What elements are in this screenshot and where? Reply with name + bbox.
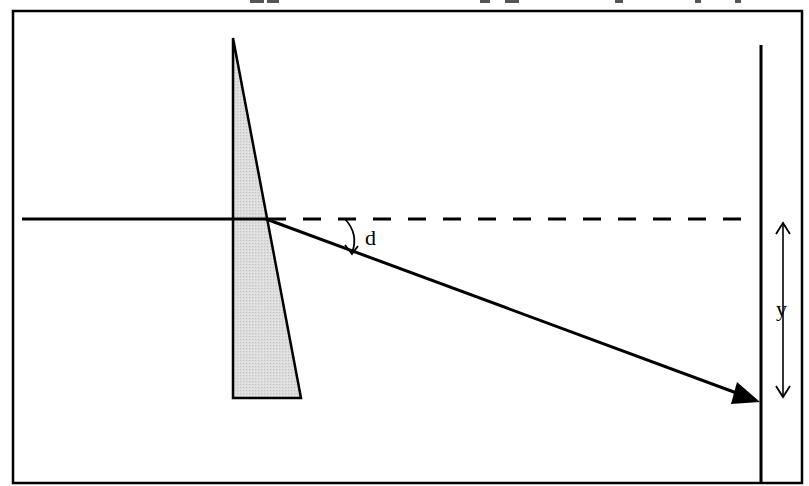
- deviated-ray: [266, 219, 742, 395]
- deviated-ray-arrowhead: [731, 382, 760, 404]
- displacement-label: y: [776, 296, 787, 321]
- deviation-angle-label: d: [365, 225, 376, 250]
- diagram-frame: [13, 11, 802, 483]
- clipped-caption-fragment: [250, 0, 741, 3]
- prism-deviation-diagram: d y: [0, 0, 809, 486]
